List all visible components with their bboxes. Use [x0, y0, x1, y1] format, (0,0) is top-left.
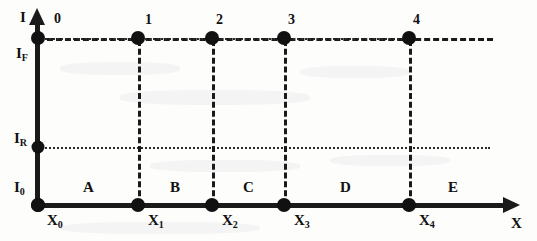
ir-level-subscript: R: [20, 137, 27, 148]
scan-artifact: [300, 66, 410, 78]
node-dot-top-1: [131, 31, 145, 45]
connector-line-4: [409, 40, 412, 205]
scan-artifact: [150, 160, 300, 172]
x-axis-label: X: [511, 216, 522, 231]
node-dot-top-0: [31, 31, 45, 45]
scan-artifact: [60, 62, 180, 75]
axis-node-ir: [32, 141, 45, 154]
origin-label: 0: [54, 12, 61, 26]
y-axis-line: [35, 22, 40, 205]
if-level-subscript: F: [22, 52, 28, 63]
node-dot-bottom-4: [402, 198, 416, 212]
x-tick-label-2: X2: [222, 213, 238, 230]
y-axis-label: I: [20, 10, 26, 25]
x-tick-symbol-1: X: [148, 212, 159, 228]
x-tick-subscript-0: 0: [58, 219, 63, 230]
node-dot-bottom-0: [31, 198, 45, 212]
region-label-e: E: [448, 180, 458, 195]
x-tick-symbol-3: X: [294, 212, 305, 228]
scan-artifact: [120, 90, 310, 105]
node-dot-top-4: [402, 31, 416, 45]
i0-level-subscript: 0: [20, 186, 25, 197]
x-tick-label-3: X3: [294, 213, 310, 230]
node-dot-bottom-3: [277, 198, 291, 212]
x-tick-subscript-3: 3: [305, 219, 310, 230]
node-index-4: 4: [413, 13, 420, 27]
region-label-b: B: [170, 180, 180, 195]
if-level-label: IF: [16, 46, 28, 63]
connector-line-1: [138, 40, 141, 205]
node-index-3: 3: [288, 13, 295, 27]
connector-line-3: [284, 40, 287, 205]
scan-artifact: [330, 155, 450, 166]
node-dot-bottom-1: [131, 198, 145, 212]
y-axis-arrow-icon: [29, 8, 45, 25]
i0-level-label: I0: [14, 180, 25, 197]
x-tick-label-4: X4: [419, 213, 435, 230]
region-label-d: D: [340, 180, 351, 195]
x-tick-subscript-4: 4: [430, 219, 435, 230]
if-level-line-overlay: [38, 38, 410, 40]
node-index-1: 1: [145, 13, 152, 27]
ir-level-line: [38, 147, 490, 149]
x-axis-arrow-icon: [503, 197, 520, 213]
x-tick-symbol-4: X: [419, 212, 430, 228]
current-level-diagram: I X 0 IF IR I0 1 2 3 4 X0 X1 X2 X3: [0, 0, 537, 241]
node-dot-top-3: [277, 31, 291, 45]
x-tick-subscript-1: 1: [159, 219, 164, 230]
x-tick-label-0: X0: [47, 213, 63, 230]
x-axis-line: [35, 203, 508, 208]
node-dot-top-2: [205, 31, 219, 45]
node-dot-bottom-2: [205, 198, 219, 212]
connector-line-2: [212, 40, 215, 205]
x-tick-subscript-2: 2: [233, 219, 238, 230]
region-label-c: C: [243, 180, 254, 195]
x-tick-symbol-0: X: [47, 212, 58, 228]
node-index-2: 2: [216, 13, 223, 27]
x-tick-label-1: X1: [148, 213, 164, 230]
region-label-a: A: [83, 180, 94, 195]
x-tick-symbol-2: X: [222, 212, 233, 228]
ir-level-label: IR: [14, 131, 27, 148]
